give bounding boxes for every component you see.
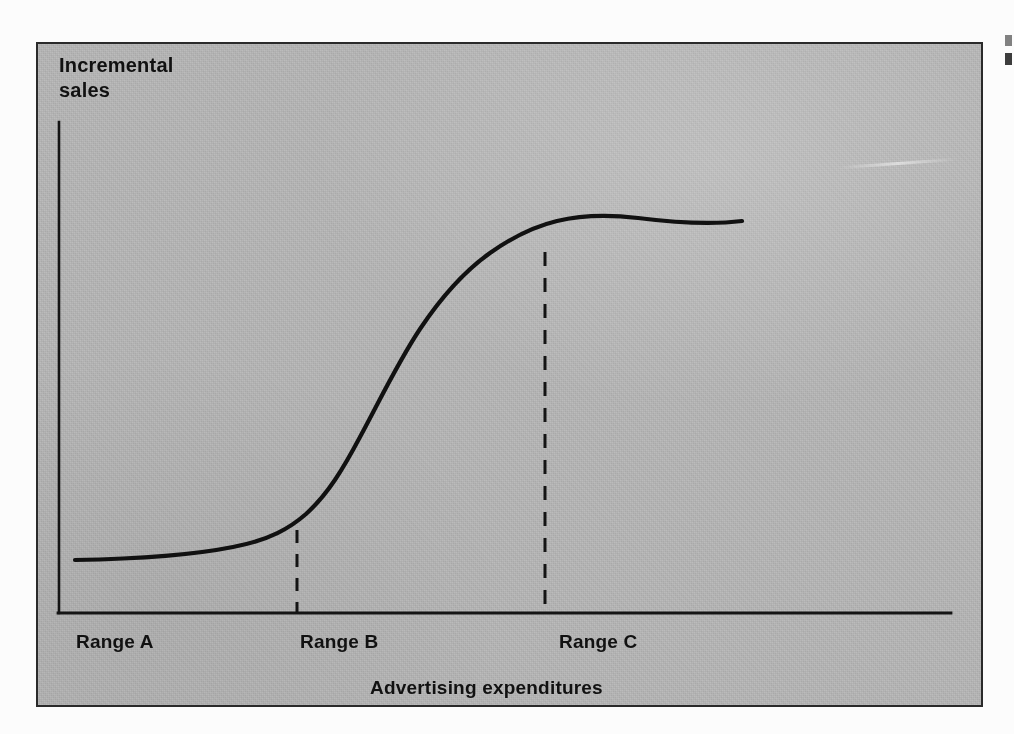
chart-plot-area — [38, 44, 981, 705]
clipped-caption-mark-1 — [1005, 35, 1012, 46]
figure-panel: Incremental sales Range A Range B Range … — [36, 42, 983, 707]
y-axis-title: Incremental sales — [59, 53, 173, 103]
range-c-label: Range C — [559, 631, 637, 653]
range-a-label: Range A — [76, 631, 154, 653]
clipped-caption-sliver — [1005, 33, 1014, 69]
clipped-caption-mark-2 — [1005, 53, 1012, 65]
figure-page: Incremental sales Range A Range B Range … — [0, 0, 1014, 734]
x-axis-title: Advertising expenditures — [370, 677, 603, 699]
range-b-label: Range B — [300, 631, 378, 653]
response-curve — [75, 216, 742, 560]
